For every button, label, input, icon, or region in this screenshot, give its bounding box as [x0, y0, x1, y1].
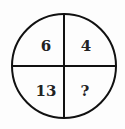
quadrant-bottom-right-unknown: ? [81, 82, 90, 100]
number-circle-puzzle: 6 4 13 ? [0, 0, 125, 129]
quadrant-bottom-left: 13 [36, 82, 57, 100]
quadrant-top-left: 6 [41, 37, 51, 55]
quadrant-top-right: 4 [81, 37, 91, 55]
